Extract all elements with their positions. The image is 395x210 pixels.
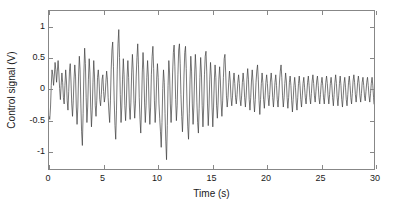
y-axis-tick xyxy=(370,58,374,59)
signal-line-chart xyxy=(49,11,374,169)
x-axis-tick xyxy=(322,165,323,169)
x-axis-tick xyxy=(104,11,105,15)
y-axis-tick xyxy=(49,152,53,153)
y-tick-label: 1 xyxy=(40,21,45,31)
control-signal-trace xyxy=(49,30,374,160)
y-axis-label: Control signal (V) xyxy=(6,51,17,128)
x-tick-label: 5 xyxy=(100,173,105,183)
y-axis-tick xyxy=(370,89,374,90)
x-axis-tick xyxy=(213,165,214,169)
y-axis-tick xyxy=(49,58,53,59)
x-axis-tick xyxy=(49,11,50,15)
x-tick-label: 20 xyxy=(261,173,271,183)
y-axis-tick xyxy=(49,121,53,122)
y-tick-label: 0 xyxy=(40,83,45,93)
x-axis-tick xyxy=(158,11,159,15)
x-axis-tick xyxy=(49,165,50,169)
y-axis-tick xyxy=(370,27,374,28)
x-axis-tick xyxy=(376,11,377,15)
x-tick-label: 10 xyxy=(152,173,162,183)
x-axis-tick xyxy=(104,165,105,169)
y-axis-tick xyxy=(370,121,374,122)
x-axis-label: Time (s) xyxy=(48,188,375,199)
y-axis-tick xyxy=(49,27,53,28)
x-tick-label: 15 xyxy=(206,173,216,183)
y-axis-tick xyxy=(370,152,374,153)
y-tick-label: 0.5 xyxy=(32,52,45,62)
figure-container: Control signal (V) -1-0.500.51 051015202… xyxy=(0,0,395,210)
x-axis-tick xyxy=(158,165,159,169)
x-axis-tick xyxy=(267,165,268,169)
y-tick-label: -1 xyxy=(37,146,45,156)
x-axis-tick xyxy=(267,11,268,15)
x-axis-tick xyxy=(213,11,214,15)
y-tick-label: -0.5 xyxy=(29,115,45,125)
x-tick-label: 30 xyxy=(370,173,380,183)
x-tick-label: 0 xyxy=(45,173,50,183)
x-tick-label: 25 xyxy=(315,173,325,183)
x-axis-tick xyxy=(376,165,377,169)
x-axis-tick xyxy=(322,11,323,15)
y-axis-tick xyxy=(49,89,53,90)
plot-area xyxy=(48,10,375,170)
